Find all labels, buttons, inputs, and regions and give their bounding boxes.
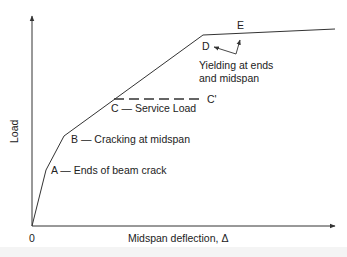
origin-label: 0 xyxy=(29,232,35,244)
yielding-arrow-d xyxy=(214,47,236,54)
point-d-label: D xyxy=(202,40,210,52)
y-axis-label: Load xyxy=(8,120,20,143)
yielding-annotation-line1: Yielding at ends xyxy=(199,59,273,71)
point-a-label: A — Ends of beam crack xyxy=(51,164,167,176)
bottom-strip xyxy=(0,247,347,257)
x-axis-label: Midspan deflection, Δ xyxy=(128,232,228,244)
point-b-label: B — Cracking at midspan xyxy=(71,133,190,145)
yielding-arrow-lines xyxy=(236,40,240,54)
point-c-prime-label: C' xyxy=(207,93,217,105)
point-c-label: C — Service Load xyxy=(111,102,196,114)
load-deflection-curve xyxy=(32,29,335,226)
point-e-label: E xyxy=(237,19,244,31)
diagram-canvas xyxy=(0,0,347,257)
yielding-annotation-line2: and midspan xyxy=(199,72,259,84)
